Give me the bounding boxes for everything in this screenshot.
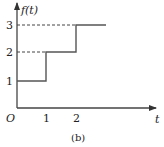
step-function-diagram: f(t) 3 2 1 O 1 2 t (b) [0, 0, 164, 147]
figure-caption: (b) [71, 132, 85, 143]
x-tick-1: 1 [43, 112, 50, 125]
x-tick-2: 2 [73, 112, 80, 125]
y-axis-label: f(t) [20, 4, 38, 17]
step-curve [17, 25, 106, 81]
origin-label: O [6, 112, 15, 125]
y-tick-2: 2 [6, 46, 13, 59]
y-tick-1: 1 [6, 75, 13, 88]
x-axis-label: t [155, 113, 160, 126]
y-tick-3: 3 [6, 19, 13, 32]
